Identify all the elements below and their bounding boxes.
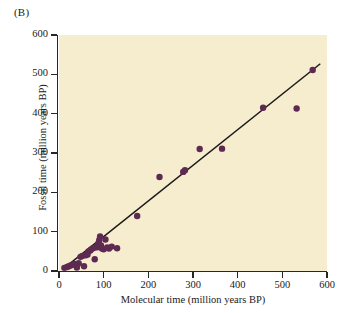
x-tick-label: 200: [128, 279, 168, 290]
y-tick-mark: [51, 152, 57, 153]
x-tick-label: 600: [307, 279, 340, 290]
x-tick-mark: [237, 272, 238, 278]
x-tick-mark: [58, 272, 59, 278]
y-tick-label: 0: [14, 264, 48, 275]
x-tick-label: 100: [84, 279, 124, 290]
figure-panel-b: (B) 0100200300400500600 0100200300400500…: [0, 0, 340, 313]
y-axis-line: [57, 35, 58, 272]
x-tick-label: 300: [173, 279, 213, 290]
y-axis-title: Fossil time (million years BP): [37, 30, 48, 266]
y-tick-mark: [51, 192, 57, 193]
x-tick-mark: [326, 272, 327, 278]
y-tick-mark: [51, 34, 57, 35]
x-tick-label: 0: [39, 279, 79, 290]
y-tick-mark: [51, 231, 57, 232]
x-tick-mark: [148, 272, 149, 278]
y-tick-mark: [51, 270, 57, 271]
x-axis-title: Molecular time (million years BP): [59, 294, 327, 305]
panel-label: (B): [14, 6, 29, 18]
x-tick-label: 400: [218, 279, 258, 290]
x-tick-mark: [282, 272, 283, 278]
y-tick-mark: [51, 74, 57, 75]
x-tick-mark: [192, 272, 193, 278]
x-tick-mark: [103, 272, 104, 278]
y-tick-mark: [51, 113, 57, 114]
plot-area: [59, 35, 327, 271]
x-tick-label: 500: [262, 279, 302, 290]
